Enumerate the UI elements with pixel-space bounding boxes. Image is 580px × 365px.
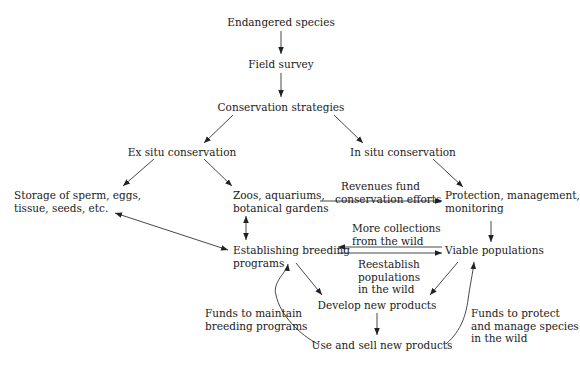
node-label: Use and sell new products [312,339,453,351]
label-line: conservation efforts [335,193,441,206]
label-line: in the wild [471,332,579,345]
node-label: Field survey [248,58,314,70]
node-field-survey: Field survey [248,58,314,71]
label-funds-protect: Funds to protect and manage species in t… [471,307,579,345]
node-protection: Protection, management, monitoring [445,189,580,214]
label-line: Revenues fund [335,180,441,193]
node-label-line: programs [233,257,350,270]
node-in-situ: In situ conservation [350,146,456,159]
node-viable: Viable populations [445,244,544,257]
edge-viable-develop [430,262,458,295]
edge-exsitu-zoos [204,159,232,186]
label-line: Funds to maintain [205,307,307,320]
node-label-line: tissue, seeds, etc. [14,202,141,215]
node-label: In situ conservation [350,146,456,158]
label-line: from the wild [352,235,441,248]
node-label-line: Storage of sperm, eggs, [14,189,141,202]
label-line: in the wild [358,283,420,296]
node-conservation-strategies: Conservation strategies [218,101,345,114]
label-more-collections: More collections from the wild [352,222,441,247]
node-use-sell: Use and sell new products [312,339,453,352]
edge-use-viable [446,262,474,344]
node-label: Ex situ conservation [128,146,236,158]
label-line: Reestablish [358,258,420,271]
node-storage: Storage of sperm, eggs, tissue, seeds, e… [14,189,141,214]
node-label-line: botanical gardens [233,202,329,215]
label-line: populations [358,271,420,284]
edge-strategies-insitu [334,115,363,143]
node-label-line: Protection, management, [445,189,580,202]
node-label-line: Establishing breeding [233,244,350,257]
node-label: Viable populations [445,244,544,256]
node-ex-situ: Ex situ conservation [128,146,236,159]
label-line: More collections [352,222,441,235]
node-label: Develop new products [318,299,437,311]
label-line: Funds to protect [471,307,579,320]
node-label-line: Zoos, aquariums, [233,189,329,202]
label-line: and manage species [471,320,579,333]
label-funds-breeding: Funds to maintain breeding programs [205,307,307,332]
edge-storage-breeding [115,213,228,250]
node-label-line: monitoring [445,202,580,215]
node-label: Conservation strategies [218,101,345,113]
edge-exsitu-storage [123,159,154,186]
node-zoos: Zoos, aquariums, botanical gardens [233,189,329,214]
node-endangered-species: Endangered species [227,16,335,29]
node-breeding: Establishing breeding programs [233,244,350,269]
edge-strategies-exsitu [204,115,233,143]
edge-use-breeding [275,264,318,344]
label-line: breeding programs [205,320,307,333]
label-revenues: Revenues fund conservation efforts [335,180,441,205]
node-label: Endangered species [227,16,335,28]
node-develop: Develop new products [318,299,437,312]
label-reestablish: Reestablish populations in the wild [358,258,420,296]
